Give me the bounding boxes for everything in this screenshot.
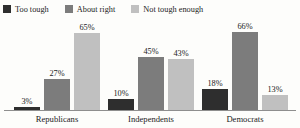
bar-rect[interactable] <box>44 79 70 111</box>
bar-value-label: 3% <box>21 97 32 106</box>
category-label-republicans: Republicans <box>10 113 104 125</box>
bar-value-label: 45% <box>143 47 158 56</box>
bar-item[interactable]: 18% <box>202 17 228 111</box>
category-label-democrats: Democrats <box>198 113 292 125</box>
bar-value-label: 18% <box>207 79 222 88</box>
legend-label-about-right: About right <box>77 5 116 14</box>
legend-swatch-not-tough-enough <box>131 5 139 13</box>
bar-value-label: 43% <box>173 49 188 58</box>
plot-area: 3%27%65%10%45%43%18%66%13% <box>0 17 300 111</box>
bar-item[interactable]: 27% <box>44 17 70 111</box>
bar-group: 3%27%65% <box>10 17 104 111</box>
bar-item[interactable]: 10% <box>108 17 134 111</box>
bar-value-label: 65% <box>79 23 94 32</box>
grouped-bar-chart: Too tough About right Not tough enough 3… <box>0 0 300 128</box>
bar-item[interactable]: 13% <box>262 17 288 111</box>
legend-item-not-tough-enough[interactable]: Not tough enough <box>131 5 203 14</box>
legend-swatch-too-tough <box>3 5 11 13</box>
bar-rect[interactable] <box>74 33 100 111</box>
legend-label-not-tough-enough: Not tough enough <box>143 5 203 14</box>
bar-group: 18%66%13% <box>198 17 292 111</box>
legend-label-too-tough: Too tough <box>15 5 49 14</box>
bar-value-label: 66% <box>237 22 252 31</box>
bar-rect[interactable] <box>232 32 258 111</box>
legend-item-too-tough[interactable]: Too tough <box>3 5 49 14</box>
category-axis-labels: RepublicansIndependentsDemocrats <box>0 113 300 127</box>
legend-item-about-right[interactable]: About right <box>65 5 116 14</box>
bar-item[interactable]: 43% <box>168 17 194 111</box>
bar-value-label: 13% <box>267 85 282 94</box>
chart-legend: Too tough About right Not tough enough <box>3 3 297 15</box>
legend-swatch-about-right <box>65 5 73 13</box>
bar-item[interactable]: 3% <box>14 17 40 111</box>
bar-rect[interactable] <box>262 95 288 111</box>
bar-group: 10%45%43% <box>104 17 198 111</box>
bar-rect[interactable] <box>202 89 228 111</box>
bar-item[interactable]: 66% <box>232 17 258 111</box>
x-axis-baseline <box>4 110 296 111</box>
bar-rect[interactable] <box>168 59 194 111</box>
bar-item[interactable]: 45% <box>138 17 164 111</box>
bar-rect[interactable] <box>138 57 164 111</box>
bar-value-label: 10% <box>113 89 128 98</box>
bar-item[interactable]: 65% <box>74 17 100 111</box>
category-label-independents: Independents <box>104 113 198 125</box>
bar-value-label: 27% <box>49 69 64 78</box>
